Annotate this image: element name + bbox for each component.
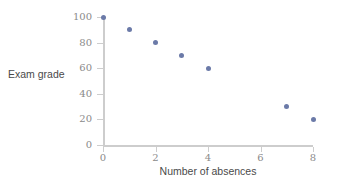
y-tick-label-wrap: 20 (64, 114, 92, 124)
plot-area: 020406080100 02468 Exam grade Number of … (0, 0, 352, 182)
data-point (311, 117, 316, 122)
x-tick-label: 0 (91, 152, 115, 163)
x-tick-label: 6 (249, 152, 273, 163)
y-tick-label-wrap: 40 (64, 89, 92, 99)
x-tick-label: 4 (196, 152, 220, 163)
data-point (127, 27, 132, 32)
data-point (179, 53, 184, 58)
y-tick-mark (97, 43, 103, 44)
x-tick-label: 2 (144, 152, 168, 163)
y-tick-mark (97, 68, 103, 69)
y-tick-label-wrap: 80 (64, 38, 92, 48)
x-axis-title: Number of absences (103, 165, 313, 178)
data-point (101, 15, 106, 20)
x-tick-label: 8 (301, 152, 325, 163)
y-axis-line (103, 17, 105, 145)
y-tick-mark (97, 119, 103, 120)
y-tick-label: 100 (64, 12, 92, 22)
scatter-chart: 020406080100 02468 Exam grade Number of … (0, 0, 352, 182)
y-tick-label: 80 (64, 38, 92, 48)
data-point (206, 66, 211, 71)
y-tick-label: 20 (64, 114, 92, 124)
y-tick-mark (97, 145, 103, 146)
y-tick-label-wrap: 100 (64, 12, 92, 22)
data-point (153, 40, 158, 45)
data-point (284, 104, 289, 109)
y-axis-title: Exam grade (8, 68, 86, 81)
y-tick-mark (97, 94, 103, 95)
y-tick-label: 0 (64, 140, 92, 150)
y-tick-label: 40 (64, 89, 92, 99)
y-tick-label-wrap: 0 (64, 140, 92, 150)
